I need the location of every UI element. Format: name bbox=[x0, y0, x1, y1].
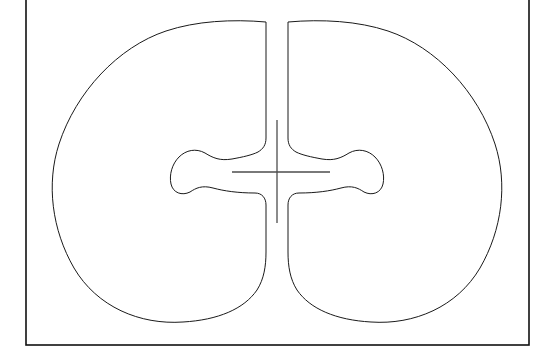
drawing-canvas bbox=[0, 0, 556, 357]
page-background bbox=[0, 0, 556, 357]
technical-drawing-svg bbox=[0, 0, 556, 357]
